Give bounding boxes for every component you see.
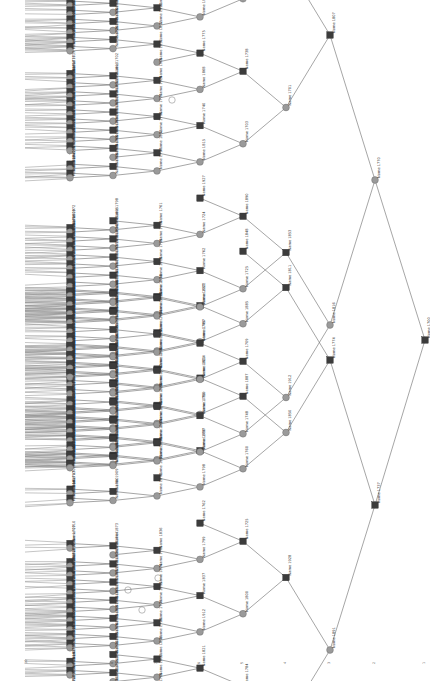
- person-label: Name 1794: [72, 27, 76, 49]
- generation-number: 1: [422, 662, 426, 664]
- person-label: Name 1709: [245, 338, 249, 360]
- person-label: Name 1831: [159, 39, 163, 60]
- person-label: Name 1740: [202, 102, 206, 124]
- person-label: Name 1777: [159, 94, 163, 115]
- ancestor-fan-lines: [25, 0, 70, 681]
- person-label: Name 1821: [202, 645, 206, 666]
- generation-number: 3: [327, 662, 331, 664]
- person-label: Name 1821: [202, 356, 206, 377]
- person-label: Name 1775: [202, 30, 206, 51]
- person-label: Name 1705: [115, 153, 119, 174]
- person-label: Name 1802: [159, 329, 163, 350]
- generation-number: 8: [110, 662, 114, 664]
- person-label: Name 1784: [245, 663, 249, 681]
- person-label: Name 1816: [332, 301, 336, 323]
- person-label: Name 1912: [202, 609, 206, 630]
- generation-number: 2: [372, 662, 376, 664]
- person-label: Name 1905: [159, 57, 163, 78]
- person-label: Name 1858: [159, 635, 163, 657]
- person-label: Name 1852: [159, 130, 163, 151]
- person-label: Name 1890: [245, 193, 249, 215]
- person-label: Name 1800: [245, 590, 249, 612]
- person-label: Name 1737: [377, 482, 381, 503]
- person-label: Name 1898: [72, 444, 76, 466]
- person-label: Name 1841: [159, 402, 163, 423]
- person-label: Name 1848: [245, 228, 249, 250]
- person-label: Name 1725: [245, 518, 249, 539]
- person-label: Name 1891: [332, 627, 336, 648]
- person-label: Name 1868: [202, 66, 206, 88]
- person-label: Name 1799: [202, 536, 206, 558]
- person-label: Name 1811: [288, 265, 292, 286]
- person-label: Name 1874: [159, 563, 163, 585]
- person-label: Name 1724: [202, 211, 206, 233]
- person-label: Name 1799: [159, 238, 163, 260]
- generation-number: 4: [283, 662, 287, 664]
- person-label: Name 1872: [159, 473, 163, 494]
- person-label: Name 1837: [202, 573, 206, 594]
- person-label: Name 1709: [159, 599, 163, 621]
- person-label: Name 1815: [202, 139, 206, 160]
- person-label: Name 1887: [245, 373, 249, 394]
- person-label: Name 1933: [115, 677, 119, 681]
- pedigree-chart: Name 1700Name 1737Name 1774Name 1811Name…: [0, 0, 430, 681]
- person-label: Name 1785: [202, 393, 206, 414]
- person-label: Name 1803: [159, 654, 163, 675]
- person-label: Name 1854: [72, 479, 76, 501]
- person-label: Name 1850: [288, 409, 292, 431]
- person-label: Name 1761: [159, 202, 163, 223]
- person-label: Name 1748: [245, 410, 249, 432]
- person-label: Name 1836: [159, 527, 163, 549]
- person-label: Name 1796: [159, 111, 163, 133]
- person-label: Name 1706: [159, 220, 163, 242]
- person-label: Name 1927: [202, 175, 206, 196]
- person-label: Name 1824: [115, 442, 119, 464]
- person-label: Name 1785: [159, 672, 163, 681]
- person-label: Name 1812: [159, 21, 163, 42]
- person-label: Name 1912: [288, 375, 292, 396]
- person-label: Name 1770: [377, 156, 381, 178]
- female-person-node[interactable]: [240, 0, 247, 2]
- generation-number: 6: [197, 662, 201, 664]
- person-label: Name 1885: [245, 301, 249, 322]
- person-label: Name 1783: [159, 311, 163, 332]
- annotation-marker-icon: [139, 607, 145, 613]
- person-label: Name 1922: [159, 3, 163, 24]
- person-label: Name 1798: [202, 463, 206, 485]
- person-label: Name 1928: [288, 554, 292, 576]
- person-label: Name 1893: [159, 293, 163, 314]
- annotation-marker-icon: [169, 97, 175, 103]
- person-label: Name 1916: [159, 437, 163, 459]
- generation-number: 9: [67, 662, 71, 664]
- person-label: Name 1840: [72, 354, 76, 376]
- person-label: Name 1797: [159, 148, 163, 169]
- person-label: Name 1760: [245, 445, 249, 467]
- generation-number: 5: [240, 662, 244, 664]
- person-label: Name 1728: [159, 617, 163, 639]
- generation-number: 10: [24, 660, 28, 664]
- person-label: Name 1818: [159, 256, 163, 278]
- person-label: Name 1924: [159, 75, 163, 97]
- person-label: Name 1738: [245, 48, 249, 70]
- person-label: Name 1837: [202, 284, 206, 305]
- person-label: Name 1893: [159, 582, 163, 603]
- person-label: Name 1822: [159, 384, 163, 405]
- person-label: Name 1897: [159, 420, 163, 441]
- person-label: Name 1853: [288, 230, 292, 251]
- person-label: Name 1877: [159, 366, 163, 387]
- person-label: Name 1858: [159, 347, 163, 369]
- person-label: Name 1866: [202, 0, 206, 15]
- generation-number: 7: [154, 662, 158, 664]
- person-label: Name 1703: [245, 121, 249, 142]
- person-label: Name 1807: [332, 12, 336, 33]
- person-label: Name 1774: [332, 336, 336, 358]
- person-label: Name 1720: [115, 25, 119, 47]
- person-label: Name 1874: [159, 274, 163, 296]
- person-label: Name 1781: [159, 546, 163, 567]
- person-label: Name 1746: [202, 320, 206, 342]
- person-label: Name 1762: [202, 500, 206, 521]
- person-label: Name 1779: [72, 154, 76, 176]
- person-label: Name 1780: [115, 477, 119, 499]
- person-label: Name 1860: [202, 428, 206, 450]
- person-label: Name 1725: [245, 266, 249, 287]
